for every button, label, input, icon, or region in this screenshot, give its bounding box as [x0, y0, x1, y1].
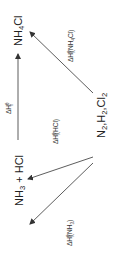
node-nh3-hcl: NH3 + HCl	[13, 155, 27, 206]
node-elements: N2,H2,Cl2	[95, 93, 109, 138]
label-delta-hf-nh3: ΔHθf(NH3)	[66, 220, 75, 246]
arrow-formation-nh4cl	[30, 32, 93, 93]
node-nh4cl: NH4Cl	[12, 15, 26, 46]
arrow-formation-hcl	[28, 157, 93, 179]
label-delta-h-r: ΔHθr	[5, 102, 14, 114]
label-delta-hf-nh4cl: ΔHθf(NH4Cl)	[67, 30, 76, 62]
hess-cycle-diagram: NH4Cl NH3 + HCl N2,H2,Cl2 ΔHθr ΔHθf(NH4C…	[0, 0, 122, 264]
arrow-formation-nh3	[30, 163, 93, 224]
label-delta-hf-hcl: ΔHθf(HCl)	[52, 119, 61, 144]
